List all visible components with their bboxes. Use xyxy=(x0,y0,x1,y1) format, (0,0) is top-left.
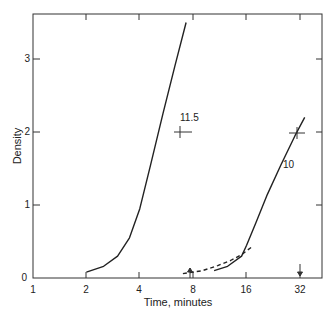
series-line xyxy=(86,23,186,273)
series-line xyxy=(214,117,305,270)
chart: 1 2 4 8 16 32 Time, minutes 0 1 2 3 Dens… xyxy=(0,0,336,311)
y-tick-label: 3 xyxy=(24,53,30,64)
x-axis-title: Time, minutes xyxy=(144,296,213,308)
y-axis-title: Density xyxy=(11,127,23,164)
cross-marker xyxy=(289,127,305,139)
cross-marker xyxy=(174,126,192,138)
arrow-icon xyxy=(298,264,303,276)
x-tick-label: 4 xyxy=(136,284,142,295)
y-tick-label: 0 xyxy=(21,272,27,283)
y-tick-label: 2 xyxy=(24,126,30,137)
x-tick-label: 32 xyxy=(294,284,306,295)
x-tick-label: 16 xyxy=(240,284,252,295)
y-tick-label: 1 xyxy=(24,199,30,210)
arrow-icon xyxy=(188,268,193,278)
x-tick-label: 1 xyxy=(30,284,36,295)
x-tick-label: 2 xyxy=(83,284,89,295)
x-tick-labels: 1 2 4 8 16 32 xyxy=(30,284,306,295)
curve-label-11-5: 11.5 xyxy=(180,112,199,123)
x-axis xyxy=(86,14,300,278)
curves xyxy=(86,23,304,274)
curve-label-10: 10 xyxy=(283,159,295,170)
x-tick-label: 8 xyxy=(190,284,196,295)
y-tick-labels: 0 1 2 3 xyxy=(21,53,30,283)
